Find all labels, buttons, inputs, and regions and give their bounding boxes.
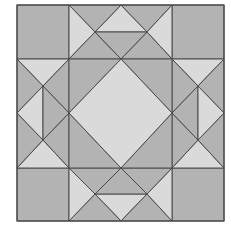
corner-bottom-right-piece <box>172 168 224 221</box>
corner-top-right-piece <box>172 5 224 59</box>
corner-bottom-left-piece <box>17 168 69 221</box>
quilt-block-diagram <box>0 0 231 245</box>
quilt-pieces <box>17 5 224 221</box>
corner-top-left-piece <box>17 5 69 59</box>
